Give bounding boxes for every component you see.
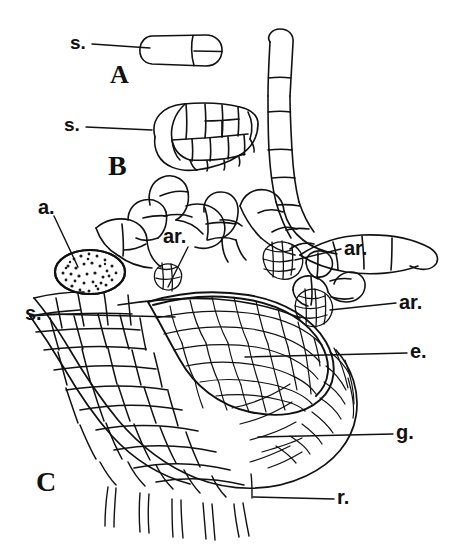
panel-label-c: C [36, 468, 56, 496]
label-s-panel-b: s. [64, 115, 80, 134]
label-ar-lower-right: ar. [399, 292, 422, 312]
panel-label-a: A [110, 62, 129, 88]
panel-label-b: B [108, 152, 127, 180]
label-ar-upper-right: ar. [344, 238, 367, 258]
label-r-rhizoid: r. [337, 487, 349, 507]
label-s-panel-c: s. [25, 303, 42, 323]
botanical-plate [0, 0, 454, 560]
label-s-panel-a: s. [70, 33, 86, 52]
antheridium [55, 250, 125, 294]
label-e-embryo: e. [410, 341, 427, 361]
label-ar-central: ar. [163, 226, 186, 246]
label-a-antheridium: a. [38, 197, 55, 217]
label-g-gametophyte: g. [396, 422, 414, 442]
